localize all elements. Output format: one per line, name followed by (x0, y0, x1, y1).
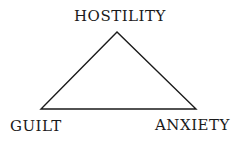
label-guilt: GUILT (10, 117, 62, 135)
label-hostility: HOSTILITY (74, 7, 166, 25)
triangle-shape (41, 32, 196, 109)
label-anxiety: ANXIETY (155, 116, 230, 134)
